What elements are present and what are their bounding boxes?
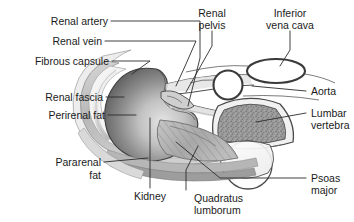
label-renal-pelvis-line2: pelvis xyxy=(199,19,226,31)
label-renal-fascia: Renal fascia xyxy=(45,91,103,103)
label-pararenal-fat-line2: fat xyxy=(89,169,101,181)
label-aorta: Aorta xyxy=(311,85,336,97)
label-renal-artery: Renal artery xyxy=(51,15,109,27)
label-psoas-major-line2: major xyxy=(311,184,338,196)
inferior-vena-cava-structure xyxy=(247,59,305,83)
label-inferior-vena-cava-line1: Inferior xyxy=(274,7,307,19)
label-renal-vein: Renal vein xyxy=(52,35,102,47)
diagram-canvas: Renal artery Renal vein Fibrous capsule … xyxy=(0,0,354,222)
aorta-structure xyxy=(214,71,243,100)
label-fibrous-capsule: Fibrous capsule xyxy=(35,55,109,67)
label-quadratus-lumborum-line2: lumborum xyxy=(194,204,241,216)
label-lumbar-vertebra-line2: vertebra xyxy=(311,119,350,131)
label-inferior-vena-cava-line2: vena cava xyxy=(266,19,314,31)
label-lumbar-vertebra-line1: Lumbar xyxy=(311,107,347,119)
leader-aorta xyxy=(252,86,306,91)
label-psoas-major-line1: Psoas xyxy=(311,172,340,184)
label-pararenal-fat-line1: Pararenal xyxy=(55,156,101,168)
label-kidney: Kidney xyxy=(134,190,167,202)
label-perirenal-fat: Perirenal fat xyxy=(48,109,105,121)
label-quadratus-lumborum-line1: Quadratus xyxy=(194,192,243,204)
anatomical-figure: Renal artery Renal vein Fibrous capsule … xyxy=(0,0,354,222)
label-renal-pelvis-line1: Renal xyxy=(198,7,225,19)
